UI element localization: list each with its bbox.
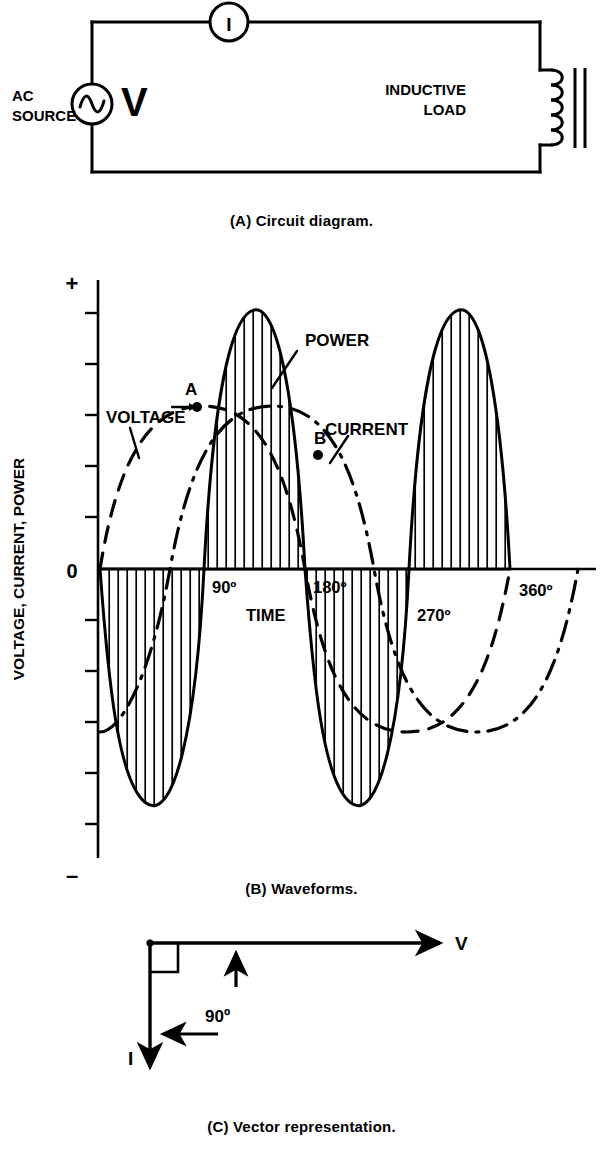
inductive-load-label-line1: INDUCTIVE — [385, 81, 466, 98]
x-axis-title: TIME — [246, 606, 285, 624]
current-vector-label: I — [128, 1048, 133, 1069]
y-axis-ticks-positive — [85, 313, 98, 517]
voltage-vector-label: V — [455, 933, 468, 954]
x-tick-label-360: 360º — [519, 581, 553, 599]
power-lobe-positive-2 — [409, 310, 510, 569]
power-lobe-negative-1 — [100, 569, 204, 806]
voltage-label: VOLTAGE — [106, 408, 186, 427]
y-axis-title: VOLTAGE, CURRENT, POWER — [10, 458, 27, 680]
panel-c-caption: (C) Vector representation. — [0, 1118, 603, 1135]
panel-b-caption: (B) Waveforms. — [0, 880, 603, 897]
inductive-load-label-line2: LOAD — [424, 101, 467, 118]
ammeter-label: I — [226, 14, 231, 35]
point-b-label: B — [314, 429, 326, 448]
ammeter-icon: I — [210, 3, 248, 41]
y-axis-ticks-negative — [85, 620, 98, 824]
power-label: POWER — [305, 331, 369, 350]
current-label: CURRENT — [325, 420, 409, 439]
point-marker-b — [313, 450, 323, 460]
panel-b-waveforms: + 0 – VOLTAGE, CURRENT, POWER — [0, 258, 603, 898]
x-tick-label-180: 180º — [313, 578, 347, 596]
ac-source-label-line1: AC — [12, 87, 34, 104]
panel-a-caption: (A) Circuit diagram. — [0, 212, 603, 229]
waveform-chart-svg: + 0 – VOLTAGE, CURRENT, POWER — [0, 258, 603, 898]
panel-c-vector-representation: V I 90º (C) Vector representation. — [0, 915, 603, 1159]
ac-source-sine-icon — [72, 84, 112, 124]
y-axis-plus-label: + — [66, 271, 79, 296]
panel-a-circuit-diagram: I V AC SOURCE INDUCTIVE LOAD (A) Circuit… — [0, 0, 603, 250]
y-axis-zero-label: 0 — [66, 560, 77, 582]
point-a-label: A — [185, 380, 197, 399]
right-angle-square-icon — [150, 943, 178, 972]
x-tick-label-270: 270º — [417, 606, 451, 624]
x-tick-label-90: 90º — [212, 578, 236, 596]
phase-angle-label: 90º — [205, 1007, 230, 1026]
iron-core-inductor-icon — [551, 68, 585, 148]
power-lobe-negative-2 — [305, 569, 409, 806]
voltage-symbol-label: V — [121, 80, 148, 124]
power-lobe-positive-1 — [204, 310, 305, 569]
ac-source-label-line2: SOURCE — [12, 107, 76, 124]
